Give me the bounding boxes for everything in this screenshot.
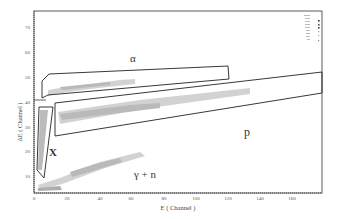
svg-text:60: 60 (25, 50, 31, 55)
svg-text:20: 20 (65, 196, 71, 201)
svg-text:30: 30 (25, 125, 31, 130)
svg-text:0: 0 (33, 196, 36, 201)
svg-text:20: 20 (25, 149, 31, 154)
y-axis: 10 20 30 40 50 60 70 (25, 11, 34, 193)
svg-text:100: 100 (192, 196, 200, 201)
x-axis-title: E ( Channel ) (161, 204, 196, 212)
svg-text:160: 160 (288, 196, 296, 201)
svg-text:40: 40 (98, 196, 104, 201)
x-axis: 0 20 40 60 80 100 120 140 160 (33, 193, 322, 201)
svg-text:10: 10 (25, 174, 31, 179)
svg-text:80: 80 (162, 196, 168, 201)
label-x: X (49, 146, 57, 158)
pid-chart: α p X γ + n 0 20 40 60 80 100 120 140 16… (0, 0, 339, 219)
svg-text:70: 70 (25, 25, 31, 30)
svg-text:40: 40 (25, 100, 31, 105)
y-axis-title: ΔE ( Channel ) (16, 102, 24, 141)
svg-text:50: 50 (25, 75, 31, 80)
svg-text:140: 140 (256, 196, 264, 201)
svg-text:60: 60 (129, 196, 135, 201)
label-proton: p (244, 125, 250, 139)
label-alpha: α (130, 52, 136, 64)
label-gamma-n: γ + n (133, 168, 157, 180)
svg-text:120: 120 (224, 196, 232, 201)
